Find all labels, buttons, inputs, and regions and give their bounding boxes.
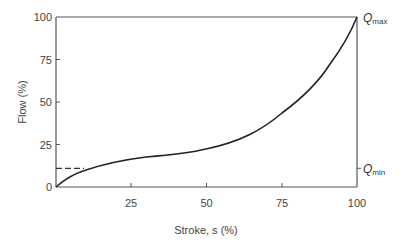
x-axis-label: Stroke, s (%): [174, 224, 238, 236]
y-tick-25: 25: [40, 139, 52, 151]
qmax-label: Qmax: [363, 11, 387, 26]
x-tick-100: 100: [348, 197, 366, 209]
x-tick-25: 25: [125, 197, 137, 209]
y-tick-100: 100: [34, 11, 52, 23]
y-tick-75: 75: [40, 54, 52, 66]
flow-curve: [56, 17, 357, 187]
flow-stroke-chart: 0 25 50 75 100 25 50 75 100 Stroke, s (%…: [0, 0, 406, 242]
x-tick-75: 75: [276, 197, 288, 209]
y-axis-label: Flow (%): [16, 80, 28, 123]
qmin-label: Qmin: [363, 162, 385, 177]
y-tick-50: 50: [40, 96, 52, 108]
x-tick-50: 50: [200, 197, 212, 209]
y-tick-0: 0: [46, 181, 52, 193]
